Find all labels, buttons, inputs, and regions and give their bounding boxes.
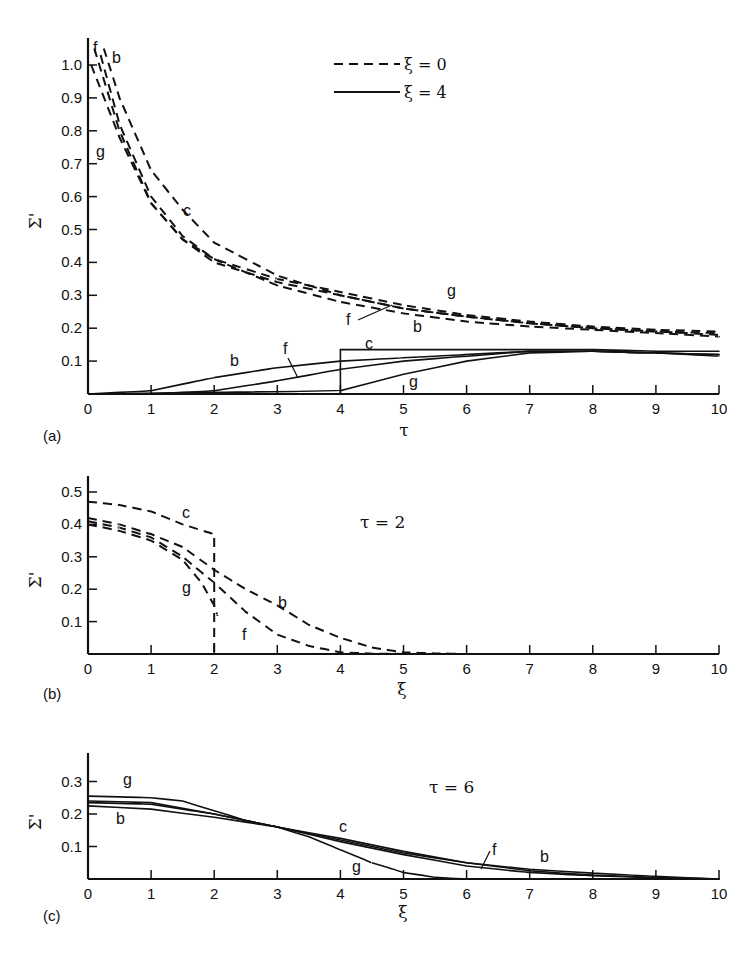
panel-a-axes: 0123456789100.10.20.30.40.50.60.70.80.91… — [61, 38, 727, 417]
curve-label-b: b — [540, 848, 549, 865]
curve-label-g: g — [447, 282, 456, 299]
y-tick-label: 0.7 — [61, 155, 82, 172]
curve-label-f: f — [492, 841, 497, 858]
curve-label-c: c — [339, 818, 347, 835]
panel-c-axes: 0123456789100.10.20.3 — [61, 753, 727, 902]
x-tick-label: 2 — [210, 400, 218, 417]
curve-label-g: g — [352, 858, 361, 875]
x-tick-label: 1 — [147, 660, 155, 677]
y-tick-label: 0.4 — [61, 253, 82, 270]
y-tick-label: 1.0 — [61, 56, 82, 73]
x-tick-label: 2 — [210, 885, 218, 902]
curve-label-g: g — [96, 143, 105, 160]
panel-b-curve-labels: c g b f — [182, 504, 287, 643]
x-tick-label: 1 — [147, 885, 155, 902]
x-tick-label: 10 — [711, 885, 728, 902]
curve-label-f: f — [283, 340, 288, 357]
x-tick-label: 2 — [210, 660, 218, 677]
curve-label-f: f — [242, 626, 247, 643]
y-tick-label: 0.9 — [61, 89, 82, 106]
curve-label-b: b — [413, 318, 422, 335]
panel-b: 0123456789100.10.20.30.40.5 τ = 2 Σ' ξ (… — [25, 476, 727, 702]
y-tick-label: 0.2 — [61, 805, 82, 822]
curve-label-g: g — [123, 771, 132, 788]
panel-c-label: (c) — [43, 907, 61, 924]
y-tick-label: 0.5 — [61, 483, 82, 500]
figure: 0123456789100.10.20.30.40.50.60.70.80.91… — [0, 0, 756, 954]
curve-f — [88, 803, 719, 879]
x-tick-label: 5 — [399, 400, 407, 417]
x-tick-label: 9 — [652, 400, 660, 417]
curve-label-b: b — [112, 49, 121, 66]
panel-b-ylabel: Σ' — [25, 572, 45, 589]
panel-a-curve-labels: f b g c g f b c g b f — [93, 39, 456, 390]
panel-a-ylabel: Σ' — [25, 213, 45, 230]
panel-c: 0123456789100.10.20.3 τ = 6 Σ' ξ (c) g b… — [25, 753, 727, 924]
panel-c-title: τ = 6 — [429, 777, 474, 797]
x-tick-label: 3 — [273, 660, 281, 677]
y-tick-label: 0.3 — [61, 773, 82, 790]
y-tick-label: 0.5 — [61, 221, 82, 238]
x-tick-label: 3 — [273, 885, 281, 902]
curve-label-b: b — [116, 810, 125, 827]
y-tick-label: 0.1 — [61, 352, 82, 369]
panel-a-label: (a) — [43, 427, 61, 444]
panel-c-curves — [88, 796, 719, 879]
panel-a-legend: ξ = 0 ξ = 4 — [334, 55, 447, 102]
x-tick-label: 9 — [652, 660, 660, 677]
x-tick-label: 7 — [526, 400, 534, 417]
x-tick-label: 8 — [589, 400, 597, 417]
panel-b-label: (b) — [43, 685, 61, 702]
curve-label-c: c — [182, 504, 190, 521]
y-tick-label: 0.2 — [61, 319, 82, 336]
panel-b-xlabel: ξ — [397, 679, 406, 699]
panel-b-curves — [88, 502, 467, 654]
panel-c-xlabel: ξ — [398, 902, 407, 922]
x-tick-label: 9 — [652, 885, 660, 902]
panel-a: 0123456789100.10.20.30.40.50.60.70.80.91… — [25, 38, 727, 444]
curve-b — [88, 518, 467, 654]
y-tick-label: 0.1 — [61, 613, 82, 630]
x-tick-label: 6 — [462, 885, 470, 902]
x-tick-label: 5 — [399, 885, 407, 902]
curve-g — [91, 65, 719, 332]
y-tick-label: 0.1 — [61, 838, 82, 855]
x-tick-label: 0 — [84, 400, 92, 417]
x-tick-label: 3 — [273, 400, 281, 417]
legend-solid-label: ξ = 4 — [404, 83, 447, 102]
y-tick-label: 0.3 — [61, 286, 82, 303]
x-tick-label: 8 — [589, 660, 597, 677]
panel-c-curve-labels: g b c g f b — [116, 771, 549, 875]
x-tick-label: 6 — [462, 400, 470, 417]
curve-label-b: b — [230, 352, 239, 369]
x-tick-label: 6 — [462, 660, 470, 677]
x-tick-label: 1 — [147, 400, 155, 417]
y-tick-label: 0.8 — [61, 122, 82, 139]
x-tick-label: 7 — [526, 660, 534, 677]
curve-label-g: g — [409, 373, 418, 390]
x-tick-label: 10 — [711, 400, 728, 417]
panel-c-ylabel: Σ' — [25, 814, 45, 831]
panel-a-xlabel: τ — [399, 420, 408, 440]
y-tick-label: 0.3 — [61, 548, 82, 565]
panel-b-title: τ = 2 — [360, 512, 405, 532]
curve-label-c: c — [365, 335, 373, 352]
x-tick-label: 4 — [336, 400, 344, 417]
x-tick-label: 8 — [589, 885, 597, 902]
curve-label-f: f — [346, 311, 351, 328]
curve-label-c: c — [183, 202, 191, 219]
curve-b — [88, 806, 719, 879]
y-tick-label: 0.4 — [61, 515, 82, 532]
x-tick-label: 0 — [84, 660, 92, 677]
curve-label-g: g — [182, 579, 191, 596]
x-tick-label: 4 — [336, 660, 344, 677]
x-tick-label: 5 — [399, 660, 407, 677]
y-tick-label: 0.2 — [61, 580, 82, 597]
x-tick-label: 0 — [84, 885, 92, 902]
curve-g — [88, 796, 530, 879]
curve-label-b: b — [278, 594, 287, 611]
x-tick-label: 10 — [711, 660, 728, 677]
x-tick-label: 4 — [336, 885, 344, 902]
y-tick-label: 0.6 — [61, 188, 82, 205]
x-tick-label: 7 — [526, 885, 534, 902]
